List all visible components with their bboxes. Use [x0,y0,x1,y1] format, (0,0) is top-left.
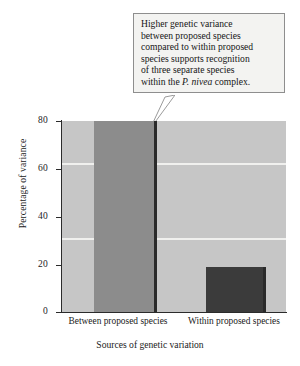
callout-line: of three separate species [141,64,278,76]
callout-prefix: within the [141,76,182,87]
callout-line: compared to within proposed [141,41,278,53]
bar-shadow-edge [154,121,157,312]
callout-line: Higher genetic variance [141,18,278,30]
bar-shadow-edge [263,267,266,312]
annotation-callout: Higher genetic variance between proposed… [133,13,285,93]
x-axis-line [61,312,287,313]
x-axis-tick-label-within: Within proposed species [178,316,290,326]
y-axis-tick [56,265,61,266]
species-name-italic: P. nivea [182,76,212,87]
plot-area [62,121,286,312]
bar-within-proposed-species [206,267,266,312]
x-axis-title: Sources of genetic variation [0,339,300,350]
bar-between-proposed-species [94,121,157,312]
y-axis-tick [56,169,61,170]
bar-face [94,121,157,312]
y-axis-tick-label: 20 [18,259,48,269]
y-axis-tick-label: 0 [18,306,48,316]
bar-face [206,267,266,312]
x-axis-tick-label-between: Between proposed species [62,316,174,326]
y-axis-tick [56,217,61,218]
y-axis-title: Percentage of variance [17,119,28,249]
y-axis-tick [56,121,61,122]
bar-chart-figure: Higher genetic variance between proposed… [0,0,300,366]
callout-line: between proposed species [141,30,278,42]
callout-line: species supports recognition [141,53,278,65]
callout-suffix: complex. [212,76,250,87]
callout-line-species: within the P. nivea complex. [141,76,278,88]
y-axis-tick [56,312,61,313]
y-axis-line [61,120,62,313]
